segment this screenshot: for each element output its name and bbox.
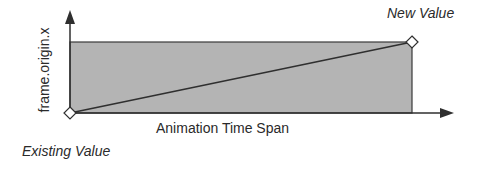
x-axis-arrow-icon [440, 108, 454, 118]
x-axis-label: Animation Time Span [156, 120, 289, 136]
existing-value-label: Existing Value [22, 143, 110, 159]
y-axis-label: frame.origin.x [36, 20, 52, 120]
y-axis-arrow-icon [65, 10, 75, 24]
new-value-label: New Value [387, 5, 454, 21]
